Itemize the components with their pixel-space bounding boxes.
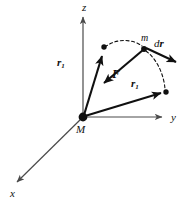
axis-x [17,117,83,182]
point-central-mass-M [79,113,88,122]
label-vector-r1-upper-subscript: 1 [61,62,65,70]
point-moving-mass-m [141,46,147,52]
label-vector-r1-upper: r1 [57,57,65,68]
diagram-canvas [0,0,187,202]
trajectory-arc-upper [105,41,142,48]
vector-r1-lower [85,93,161,116]
label-vector-dr-symbol: r [160,37,164,49]
vector-diagram-figure: z y x M m r1 F r1 dr [0,0,187,202]
label-moving-mass-m: m [141,33,148,43]
label-vector-r1-lower: r1 [131,78,139,89]
axis-label-x: x [10,188,15,199]
point-path-start [101,44,106,49]
label-vector-dr: dr [154,38,164,49]
vector-r1-upper [84,56,102,115]
label-central-mass-M: M [76,124,85,135]
label-vector-force-F: F [112,68,120,80]
axis-label-z: z [82,2,86,13]
trajectory-arc-lower [146,51,165,89]
axis-label-y: y [171,112,176,123]
label-vector-r1-lower-subscript: 1 [135,83,139,91]
point-path-end [163,89,168,94]
